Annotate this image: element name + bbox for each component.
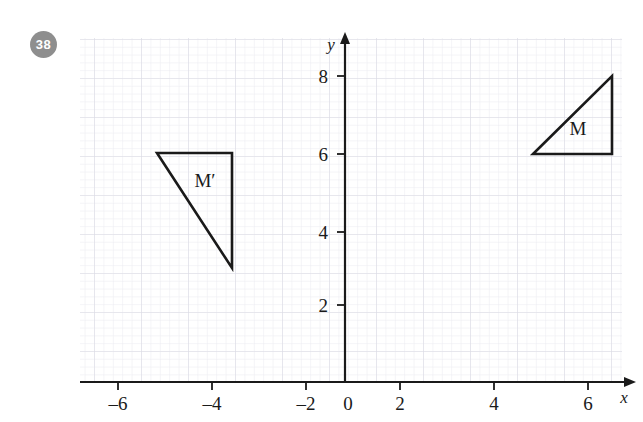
y-tick-label-6: 6 (319, 144, 329, 165)
y-tick-label-8: 8 (319, 66, 329, 87)
x-tick-label-0: 0 (343, 393, 353, 414)
triangle-m-prime-label: M′ (194, 170, 215, 191)
worksheet-figure: 38 (0, 0, 643, 422)
y-tick-label-2: 2 (319, 295, 329, 316)
x-axis-arrow (624, 377, 636, 387)
x-axis-title: x (619, 388, 628, 407)
x-tick-label--6: –6 (108, 393, 128, 414)
y-tick-label-4: 4 (319, 222, 329, 243)
coordinate-plane: –6 –4 –2 0 2 4 6 8 6 4 2 y x M M′ (0, 0, 643, 422)
x-tick-label-4: 4 (489, 393, 499, 414)
x-tick-label--2: –2 (296, 393, 316, 414)
x-tick-label-6: 6 (583, 393, 593, 414)
grid-background (80, 38, 622, 382)
y-axis-title: y (325, 35, 335, 54)
triangle-m-label: M (570, 118, 587, 139)
x-tick-label--4: –4 (202, 393, 223, 414)
x-tick-label-2: 2 (395, 393, 405, 414)
